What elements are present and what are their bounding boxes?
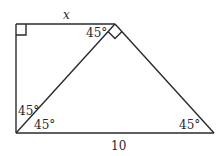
right-slant-side [115,24,214,133]
right-angle-marker-apex [108,32,122,39]
bottom-side-label: 10 [111,139,126,153]
top-side-label: x [63,8,70,22]
trapezoid-diagram: x 45° 45° 45° 45° 10 [0,0,222,156]
angle-label-bottom-left-upper: 45° [18,104,39,118]
right-angle-marker-top-left [16,24,26,35]
angle-label-apex: 45° [86,26,107,40]
angle-label-bottom-left-lower: 45° [34,118,55,132]
angle-label-bottom-right: 45° [179,118,200,132]
